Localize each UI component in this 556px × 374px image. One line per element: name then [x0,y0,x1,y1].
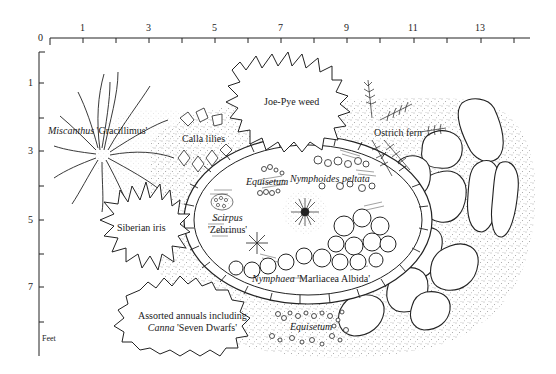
label-ostrich-fern: Ostrich fern [374,127,422,139]
miscanthus-cultivar: 'Gracillimus' [97,125,148,136]
nymphaea-cultivar: 'Marliacea Albida' [297,273,370,284]
x-axis [50,38,530,45]
label-siberian-iris: Siberian iris [117,222,166,234]
y-axis-unit-label: Feet [42,334,56,343]
x-axis-label-3: 3 [146,22,151,33]
garden-plan-diagram: 0 1 3 5 7 9 11 13 1 3 5 7 Feet Miscanthu… [0,0,556,374]
scirpus-cultivar: 'Zebrinus' [208,224,247,235]
y-axis [39,52,45,356]
canna-genus: Canna [148,322,175,333]
equisetum-bottom-genus: Equisetum [290,321,332,332]
label-nymphoides: Nymphoides peltata [290,173,370,185]
x-axis-label-11: 11 [408,22,418,33]
x-axis-ticks [83,38,514,43]
label-joe-pye-weed: Joe-Pye weed [264,96,319,108]
miscanthus-genus: Miscanthus [48,125,94,136]
annuals-line1: Assorted annuals including [138,310,247,321]
scirpus-clump [211,194,233,210]
y-axis-label-1: 1 [28,77,33,88]
label-nymphaea: Nymphaea 'Marliacea Albida' [252,273,370,285]
label-equisetum-top: Equisetum [246,176,288,188]
x-axis-label-13: 13 [475,22,485,33]
y-axis-label-7: 7 [28,281,33,292]
label-miscanthus: Miscanthus 'Gracillimus' [48,125,147,137]
y-axis-label-5: 5 [28,214,33,225]
x-axis-label-1: 1 [80,22,85,33]
label-equisetum-bottom: Equisetum [290,321,332,333]
x-axis-label-5: 5 [212,22,217,33]
nymphaea-genus: Nymphaea [252,273,295,284]
x-axis-label-9: 9 [344,22,349,33]
x-axis-label-0: 0 [38,32,43,43]
star-plant [246,232,268,254]
label-annuals: Assorted annuals including Canna 'Seven … [138,310,247,333]
label-calla-lilies: Calla lilies [182,133,225,145]
nymphoides-genus: Nymphoides peltata [290,173,370,184]
x-axis-label-7: 7 [278,22,283,33]
equisetum-top-genus: Equisetum [246,176,288,187]
label-scirpus: Scirpus 'Zebrinus' [208,212,247,235]
y-axis-label-3: 3 [28,145,33,156]
canna-cultivar: 'Seven Dwarfs' [177,322,237,333]
scirpus-genus: Scirpus [213,212,243,223]
